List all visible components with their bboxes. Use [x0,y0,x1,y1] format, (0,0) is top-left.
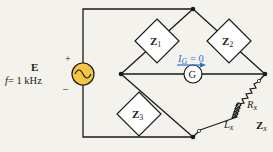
impedance-z3: Z3 [117,92,161,136]
source-plus: + [65,53,71,64]
node-bottom [191,135,196,140]
inductor-lx [200,103,241,130]
inductor-label: Lx [223,119,234,132]
unknown-impedance-label: Zx [256,119,267,133]
source-label: E [31,61,38,73]
top-wire [83,9,193,63]
ac-source [72,63,94,85]
terminal-lx [197,129,200,132]
source-minus: _ [62,79,69,90]
terminal-rx [257,79,260,82]
galvanometer: G [184,65,202,83]
current-label: IG = 0 [177,53,204,66]
impedance-z2: Z2 [207,19,251,63]
node-left [119,72,124,77]
resistor-label: Rx [246,99,257,112]
node-top [191,7,196,12]
node-right [263,72,268,77]
impedance-z1: Z1 [135,19,179,63]
source-frequency: f= 1 kHz [5,75,42,86]
bridge-circuit-diagram: + _ E f= 1 kHz Z1 Z2 Z3 G IG = 0 Rx Lx Z… [0,0,273,152]
svg-text:G: G [189,69,197,80]
